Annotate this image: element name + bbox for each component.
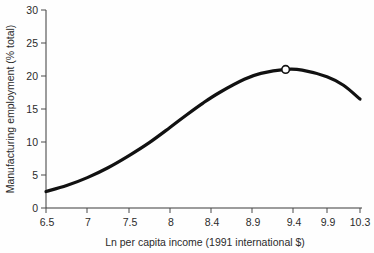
x-tick-label-10-3: 10.3	[350, 216, 371, 228]
x-tick-label-7-5: 7.5	[123, 216, 138, 228]
x-tick-label-8-9: 8.9	[246, 216, 261, 228]
x-axis-ticks	[46, 208, 360, 213]
y-tick-label-5: 5	[32, 169, 38, 181]
data-series-line	[46, 69, 360, 191]
y-tick-label-10: 10	[26, 136, 38, 148]
chart-plot-area: 0 5 10 15 20 25 30 6.5 7 7.5 8 8.4	[0, 0, 374, 253]
y-tick-label-0: 0	[32, 202, 38, 214]
x-axis-tick-labels: 6.5 7 7.5 8 8.4 8.9 9.4 9.9 10.3	[40, 216, 371, 228]
y-tick-label-30: 30	[26, 4, 38, 16]
x-tick-label-8: 8	[168, 216, 174, 228]
y-tick-label-25: 25	[26, 37, 38, 49]
x-axis-title: Ln per capita income (1991 international…	[105, 236, 305, 248]
y-axis-ticks	[41, 10, 46, 208]
x-tick-label-9-9: 9.9	[321, 216, 336, 228]
chart-figure: 0 5 10 15 20 25 30 6.5 7 7.5 8 8.4	[0, 0, 374, 253]
y-axis-title: Manufacturing employment (% total)	[4, 25, 16, 194]
y-axis-tick-labels: 0 5 10 15 20 25 30	[26, 4, 38, 214]
x-tick-label-9-4: 9.4	[287, 216, 302, 228]
peak-point-marker	[282, 66, 290, 74]
x-tick-label-8-4: 8.4	[205, 216, 220, 228]
y-tick-label-15: 15	[26, 103, 38, 115]
x-tick-label-7: 7	[85, 216, 91, 228]
x-tick-label-6-5: 6.5	[40, 216, 55, 228]
y-tick-label-20: 20	[26, 70, 38, 82]
